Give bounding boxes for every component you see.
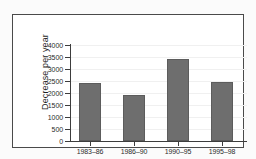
x-tick-mark-1995-98	[222, 141, 223, 146]
y-tick-label-2000: 2000	[29, 90, 63, 97]
x-tick-label-1990-95: 1990–95	[155, 148, 201, 156]
y-axis-line	[70, 44, 71, 142]
y-tick-1000-wrap: 1000	[27, 114, 63, 121]
y-tick-label-3500: 3500	[29, 54, 63, 61]
y-tick-2500-wrap: 2500	[27, 78, 63, 85]
y-tick-label-0: 0	[29, 138, 63, 145]
y-tick-label-2500: 2500	[29, 78, 63, 85]
bar-1983-86	[79, 83, 101, 141]
y-tick-3000-wrap: 3000	[27, 66, 63, 73]
y-tick-3500-wrap: 3500	[27, 54, 63, 61]
chart-figure: Decrease per year 4000 3500 3000 2500 20…	[0, 0, 256, 159]
bar-1986-90	[123, 95, 145, 141]
x-tick-label-1983-86: 1983–86	[67, 148, 113, 156]
chart-frame: Decrease per year 4000 3500 3000 2500 20…	[12, 14, 244, 148]
x-tick-mark-1983-86	[90, 141, 91, 146]
plot-area	[71, 45, 247, 141]
x-tick-label-1995-98: 1995–98	[199, 148, 245, 156]
y-tick-500-wrap: 500	[27, 126, 63, 133]
y-tick-label-1000: 1000	[29, 114, 63, 121]
y-tick-2000-wrap: 2000	[27, 90, 63, 97]
bar-1995-98	[211, 82, 233, 141]
x-axis-line	[70, 141, 247, 142]
x-tick-mark-1990-95	[178, 141, 179, 146]
y-tick-label-1500: 1500	[29, 102, 63, 109]
y-tick-4000-wrap: 4000	[27, 42, 63, 49]
gridline-3500	[71, 57, 247, 58]
x-tick-mark-1986-90	[134, 141, 135, 146]
y-tick-label-3000: 3000	[29, 66, 63, 73]
x-tick-label-1986-90: 1986–90	[111, 148, 157, 156]
y-tick-label-500: 500	[29, 126, 63, 133]
y-tick-label-4000: 4000	[29, 42, 63, 49]
y-tick-1500-wrap: 1500	[27, 102, 63, 109]
gridline-4000	[71, 45, 247, 46]
y-tick-0-wrap: 0	[27, 138, 63, 145]
bar-1990-95	[167, 59, 189, 141]
gridline-3000	[71, 69, 247, 70]
